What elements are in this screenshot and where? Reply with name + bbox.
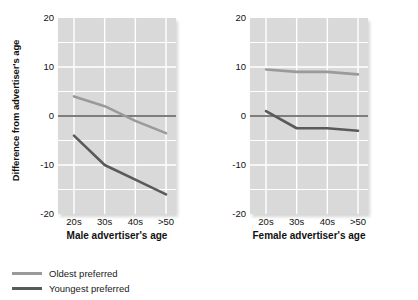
plot-area-female [250,18,368,214]
x-axis-tick-label: 40s [320,216,335,227]
x-axis-tick-label: 20s [258,216,273,227]
y-axis-ticks-male: 20100-10-20 [30,0,56,222]
plot-svg-male [58,18,176,214]
x-axis-tick-label: 30s [97,216,112,227]
x-axis-ticks-female: 20s30s40s>50 [250,216,368,230]
x-axis-tick-label: 20s [66,216,81,227]
y-axis-tick-label: -20 [40,209,54,219]
y-axis-tick-label: 0 [49,111,54,121]
data-line [266,69,358,74]
y-axis-label: Difference from advertiser's age [10,11,21,211]
y-axis-tick-label: -20 [232,209,246,219]
legend-item: Youngest preferred [12,281,129,296]
x-axis-tick-label: 40s [128,216,143,227]
y-axis-tick-label: 20 [43,13,54,23]
legend-swatch-icon [12,272,42,275]
plot-svg-female [250,18,368,214]
x-axis-label-male: Male advertiser's age [40,230,194,241]
legend-label: Youngest preferred [49,283,129,294]
data-line [266,111,358,131]
y-axis-tick-label: 0 [241,111,246,121]
x-axis-tick-label: 30s [289,216,304,227]
y-axis-tick-label: -10 [232,160,246,170]
x-axis-tick-label: >50 [350,216,366,227]
y-axis-tick-label: 10 [43,62,54,72]
chart-figure: Difference from advertiser's age 20100-1… [0,0,418,300]
legend-label: Oldest preferred [49,268,118,279]
x-axis-ticks-male: 20s30s40s>50 [58,216,176,230]
y-axis-ticks-female: 20100-10-20 [222,0,248,222]
y-axis-tick-label: -10 [40,160,54,170]
legend-item: Oldest preferred [12,266,129,281]
x-axis-label-female: Female advertiser's age [232,230,386,241]
y-axis-tick-label: 20 [235,13,246,23]
y-axis-tick-label: 10 [235,62,246,72]
chart-legend: Oldest preferredYoungest preferred [12,266,129,296]
legend-swatch-icon [12,287,42,290]
plot-area-male [58,18,176,214]
data-line [74,96,166,133]
x-axis-tick-label: >50 [158,216,174,227]
